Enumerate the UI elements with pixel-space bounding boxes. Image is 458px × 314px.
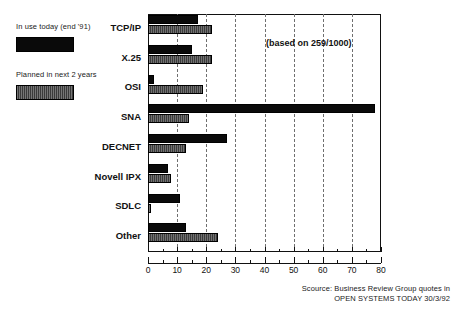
bar-in-use	[148, 223, 186, 232]
category-label: SNA	[121, 112, 141, 122]
x-tick-minor	[221, 260, 222, 264]
bar-group: DECNET	[148, 133, 381, 163]
category-label: X.25	[121, 53, 141, 63]
bar-group: SDLC	[148, 193, 381, 223]
chart-annotation: (based on 259/1000)	[266, 38, 352, 48]
x-tick-minor	[308, 260, 309, 264]
chart-legend: In use today (end '91) Planned in next 2…	[16, 22, 144, 118]
x-tick-label: 10	[172, 265, 181, 275]
source-citation: Scource: Business Review Group quotes in…	[302, 284, 450, 304]
bar-planned	[148, 204, 151, 213]
x-tick-label: 70	[347, 265, 356, 275]
x-axis: 01020304050607080	[148, 252, 381, 265]
x-tick-label: 30	[231, 265, 240, 275]
x-tick-major	[177, 257, 178, 263]
category-label: SDLC	[115, 201, 141, 211]
x-tick-major	[206, 257, 207, 263]
x-tick-minor	[279, 260, 280, 264]
bar-group: X.25	[148, 44, 381, 74]
x-tick-inner-major	[381, 247, 382, 252]
x-axis-line	[148, 263, 381, 264]
x-tick-major	[323, 257, 324, 263]
legend-label-planned: Planned in next 2 years	[16, 70, 144, 80]
bar-in-use	[148, 15, 198, 24]
x-tick-label: 50	[289, 265, 298, 275]
bar-planned	[148, 233, 218, 242]
category-label: TCP/IP	[110, 23, 141, 33]
bar-in-use	[148, 45, 192, 54]
legend-swatch-in-use	[16, 37, 74, 52]
category-label: DECNET	[102, 142, 141, 152]
x-tick-major	[265, 257, 266, 263]
x-tick-label: 60	[318, 265, 327, 275]
x-tick-major	[352, 257, 353, 263]
bar-group: OSI	[148, 74, 381, 104]
bar-in-use	[148, 75, 154, 84]
x-tick-major	[294, 257, 295, 263]
x-tick-minor	[163, 260, 164, 264]
bar-planned	[148, 114, 189, 123]
x-tick-minor	[192, 260, 193, 264]
bar-in-use	[148, 134, 227, 143]
x-tick-minor	[366, 260, 367, 264]
plot-area: TCP/IPX.25OSISNADECNETNovell IPXSDLCOthe…	[148, 14, 381, 252]
x-tick-minor	[337, 260, 338, 264]
bar-group: Novell IPX	[148, 163, 381, 193]
bar-in-use	[148, 194, 180, 203]
bar-in-use	[148, 104, 375, 113]
bar-planned	[148, 144, 186, 153]
x-tick-label: 0	[146, 265, 151, 275]
bar-in-use	[148, 164, 168, 173]
x-tick-major	[381, 257, 382, 263]
legend-swatch-planned	[16, 85, 74, 100]
source-line-1: Scource: Business Review Group quotes in	[302, 284, 450, 294]
x-tick-minor	[250, 260, 251, 264]
category-label: Other	[116, 231, 141, 241]
source-line-2: OPEN SYSTEMS TODAY 30/3/92	[302, 294, 450, 304]
chart-page: In use today (end '91) Planned in next 2…	[0, 0, 458, 314]
x-tick-label: 80	[376, 265, 385, 275]
bar-rows: TCP/IPX.25OSISNADECNETNovell IPXSDLCOthe…	[148, 14, 381, 252]
x-tick-label: 20	[202, 265, 211, 275]
x-tick-label: 40	[260, 265, 269, 275]
bar-planned	[148, 174, 171, 183]
bar-planned	[148, 25, 212, 34]
x-tick-major	[235, 257, 236, 263]
category-label: OSI	[125, 82, 141, 92]
bar-group: SNA	[148, 103, 381, 133]
x-tick-major	[148, 257, 149, 263]
bar-planned	[148, 85, 203, 94]
bar-planned	[148, 55, 212, 64]
category-label: Novell IPX	[95, 172, 141, 182]
